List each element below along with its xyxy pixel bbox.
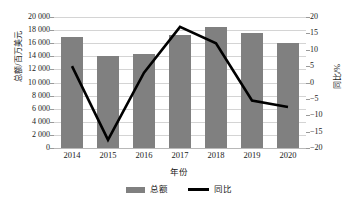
y-axis-left-tick-label: 6 000 <box>0 105 53 113</box>
tickmark <box>306 99 310 100</box>
tickmark <box>306 33 310 34</box>
y-axis-left-tick-label: 14 000 <box>0 52 53 60</box>
tickmark <box>306 17 310 18</box>
line-series-同比 <box>54 17 306 148</box>
tickmark <box>306 132 310 133</box>
y-axis-right-tickmarks <box>306 17 310 148</box>
y-axis-right-tick-label: −5 <box>306 95 336 103</box>
x-axis-tick-label: 2018 <box>198 150 234 160</box>
y-axis-right-tick-label: −10 <box>306 111 336 119</box>
y-axis-left-tick-label: 2 000 <box>0 131 53 139</box>
legend-label-yoy: 同比 <box>214 185 232 194</box>
line-swatch-icon <box>188 188 209 191</box>
y-axis-left-tick-label: 0 <box>0 144 53 152</box>
y-axis-right-tick-label: 15 <box>306 29 336 37</box>
legend-label-total: 总额 <box>150 185 168 194</box>
plot-area <box>54 17 306 148</box>
y-axis-left-tick-label: 12 000 <box>0 65 53 73</box>
tickmark <box>306 83 310 84</box>
tickmark <box>306 148 310 149</box>
tickmark <box>306 66 310 67</box>
x-axis-tick-labels: 2014201520162017201820192020 <box>54 150 306 164</box>
y-axis-right-tick-label: −15 <box>306 128 336 136</box>
gridline <box>54 148 306 149</box>
x-axis-tick-label: 2015 <box>90 150 126 160</box>
line-path <box>72 27 288 140</box>
x-axis-tick-label: 2014 <box>54 150 90 160</box>
x-axis-tick-label: 2017 <box>162 150 198 160</box>
y-axis-right-tick-label: 5 <box>306 62 336 70</box>
x-axis-tick-label: 2020 <box>270 150 306 160</box>
legend-item-yoy[interactable]: 同比 <box>188 185 232 194</box>
x-axis-tick-label: 2019 <box>234 150 270 160</box>
tickmark <box>306 50 310 51</box>
y-axis-left-tick-label: 18 000 <box>0 26 53 34</box>
y-axis-right-tick-label: 10 <box>306 46 336 54</box>
tickmark <box>306 115 310 116</box>
y-axis-left-tick-label: 20 000 <box>0 13 53 21</box>
y-axis-right-tick-label: −20 <box>306 144 336 152</box>
y-axis-left-tick-label: 16 000 <box>0 39 53 47</box>
y-axis-left-tick-label: 4 000 <box>0 118 53 126</box>
y-axis-left-tick-label: 10 000 <box>0 79 53 87</box>
x-axis-title: 年份 <box>0 168 358 177</box>
bar-swatch-icon <box>126 187 145 193</box>
y-axis-right-tick-label: 0 <box>306 79 336 87</box>
legend-item-total[interactable]: 总额 <box>126 185 168 194</box>
y-axis-left-tick-label: 8 000 <box>0 92 53 100</box>
x-axis-tick-label: 2016 <box>126 150 162 160</box>
combo-chart: 总额/百万美元 同比/% 02 0004 0006 0008 00010 000… <box>0 0 358 207</box>
y-axis-right-tick-label: 20 <box>306 13 336 21</box>
chart-legend: 总额 同比 <box>0 185 358 194</box>
